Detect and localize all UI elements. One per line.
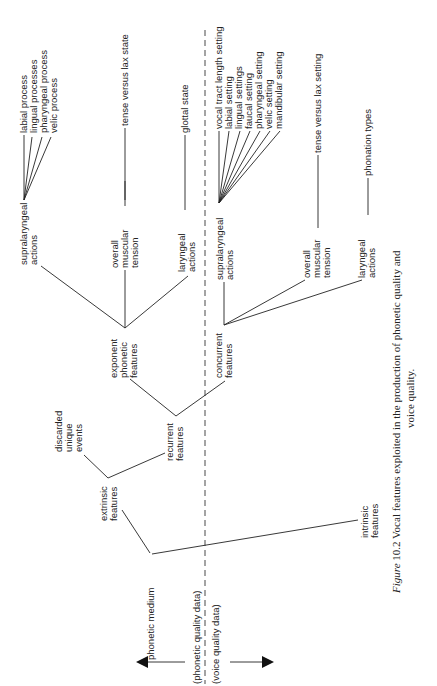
figure-caption-line2: voice quality.: [404, 369, 416, 428]
node-voice-laryngeal-actions: laryngeal actions: [356, 239, 377, 278]
svg-text:events: events: [73, 424, 84, 452]
svg-text:actions: actions: [186, 242, 197, 272]
svg-text:features: features: [128, 343, 139, 378]
node-extrinsic-features: extrinsic features: [98, 486, 119, 521]
tree-lines: [24, 128, 368, 554]
leaf-tense-versus-lax-setting: tense versus lax setting: [312, 54, 323, 153]
arrow-right-icon: [230, 656, 274, 668]
node-intrinsic-features: intrinsic features: [359, 503, 380, 538]
svg-text:actions: actions: [28, 235, 39, 265]
node-exponent-phonetic-features: exponent phonetic features: [108, 339, 139, 378]
svg-text:features: features: [369, 503, 380, 538]
node-phonetic-medium: phonetic medium: [145, 588, 156, 660]
svg-text:tension: tension: [129, 237, 140, 268]
arrow-left-icon: [136, 656, 185, 668]
voice-quality-label: (voice quality data): [210, 604, 221, 684]
svg-text:actions: actions: [366, 248, 377, 278]
svg-text:features: features: [174, 426, 185, 461]
svg-text:velic process: velic process: [48, 78, 59, 133]
node-concurrent-features: concurrent features: [213, 333, 234, 378]
svg-text:mandibular setting: mandibular setting: [273, 51, 284, 129]
node-discarded-unique-events: discarded unique events: [53, 411, 84, 452]
phonetic-quality-label: (phonetic quality data): [191, 591, 202, 684]
leaf-phonation-types: phonation types: [362, 109, 373, 176]
voice-supralaryngeal-leaves: vocal tract length setting labial settin…: [213, 27, 284, 129]
node-recurrent-features: recurrent features: [164, 423, 185, 461]
leaf-glottal-state: glottal state: [179, 84, 190, 133]
svg-text:tension: tension: [321, 247, 332, 278]
svg-text:features: features: [108, 486, 119, 521]
phonetic-supralaryngeal-leaves: labial process lingual processes pharyng…: [18, 50, 59, 133]
svg-text:features: features: [223, 343, 234, 378]
node-voice-supralaryngeal-actions: supralaryngeal actions: [214, 218, 235, 280]
figure-caption: Figure 10.2 Vocal features exploited in …: [390, 250, 402, 594]
node-phonetic-supralaryngeal-actions: supralaryngeal actions: [18, 203, 39, 265]
leaf-tense-versus-lax-state: tense versus lax state: [119, 34, 130, 126]
vocal-features-diagram: (phonetic quality data) (voice quality d…: [0, 0, 437, 686]
node-phonetic-laryngeal-actions: laryngeal actions: [176, 233, 197, 272]
node-phonetic-muscular-tension: overall muscular tension: [109, 229, 140, 268]
svg-text:actions: actions: [224, 250, 235, 280]
node-voice-muscular-tension: overall muscular tension: [301, 239, 332, 278]
